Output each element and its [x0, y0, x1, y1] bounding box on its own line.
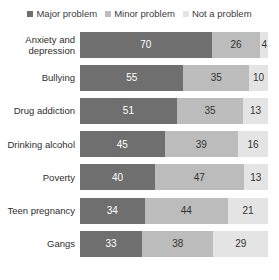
bar-segment-not-a-problem[interactable]: 29: [213, 231, 268, 257]
bar-segment-not-a-problem[interactable]: 21: [228, 198, 268, 224]
stacked-bar[interactable]: 344421: [80, 198, 268, 224]
bar-value-label: 13: [250, 172, 261, 183]
bar-segment-minor[interactable]: 44: [145, 198, 229, 224]
bar-segment-major[interactable]: 33: [80, 231, 142, 257]
bar-value-label: 35: [205, 105, 216, 116]
bar-segment-not-a-problem[interactable]: 13: [244, 164, 268, 190]
bar-value-label: 21: [242, 205, 253, 216]
bar-value-label: 39: [196, 139, 207, 150]
category-label: Poverty: [0, 172, 80, 183]
bar-segment-major[interactable]: 51: [80, 98, 177, 124]
bar-value-label: 47: [194, 172, 205, 183]
bar-segment-major[interactable]: 34: [80, 198, 145, 224]
bar-value-label: 51: [123, 105, 134, 116]
chart-row: Teen pregnancy344421: [0, 197, 279, 224]
legend-item[interactable]: Major problem: [27, 9, 97, 19]
category-label-line: Gangs: [0, 238, 75, 249]
category-label-line: Bullying: [0, 72, 75, 83]
chart-plot-area: Anxiety anddepression70264Bullying553510…: [0, 26, 279, 276]
category-label-line: Drinking alcohol: [0, 139, 75, 150]
legend-item[interactable]: Not a problem: [183, 9, 252, 19]
bar-segment-minor[interactable]: 39: [165, 131, 238, 157]
bar-value-label: 16: [247, 139, 258, 150]
bar-value-label: 40: [112, 172, 123, 183]
bar-segment-minor[interactable]: 35: [183, 65, 249, 91]
bar-segment-not-a-problem[interactable]: 13: [243, 98, 268, 124]
bar-value-label: 13: [250, 105, 261, 116]
chart-legend: Major problemMinor problemNot a problem: [0, 7, 279, 21]
category-label-line: depression: [0, 45, 75, 56]
category-label-line: Anxiety and: [0, 34, 75, 45]
stacked-bar[interactable]: 333829: [80, 231, 268, 257]
legend-item-label: Minor problem: [114, 9, 175, 19]
bar-segment-minor[interactable]: 26: [212, 32, 261, 58]
stacked-bar[interactable]: 404713: [80, 164, 268, 190]
category-label-line: Poverty: [0, 172, 75, 183]
bar-segment-major[interactable]: 70: [80, 32, 212, 58]
chart-row: Gangs333829: [0, 230, 279, 257]
chart-row: Anxiety anddepression70264: [0, 31, 279, 58]
category-label-line: Teen pregnancy: [0, 205, 75, 216]
category-label: Drinking alcohol: [0, 139, 80, 150]
bar-segment-not-a-problem[interactable]: 10: [249, 65, 268, 91]
bar-value-label: 10: [253, 72, 264, 83]
legend-swatch-icon: [27, 11, 33, 17]
bar-value-label: 26: [230, 39, 241, 50]
stacked-bar-chart: Major problemMinor problemNot a problem …: [0, 0, 279, 280]
category-label: Gangs: [0, 238, 80, 249]
bar-value-label: 44: [181, 205, 192, 216]
bar-value-label: 34: [107, 205, 118, 216]
chart-row: Poverty404713: [0, 164, 279, 191]
legend-item[interactable]: Minor problem: [105, 9, 175, 19]
bar-segment-minor[interactable]: 35: [177, 98, 243, 124]
bar-value-label: 29: [235, 238, 246, 249]
chart-row: Drinking alcohol453916: [0, 131, 279, 158]
bar-value-label: 35: [211, 72, 222, 83]
category-label: Drug addiction: [0, 105, 80, 116]
stacked-bar[interactable]: 453916: [80, 131, 268, 157]
legend-item-label: Major problem: [36, 9, 97, 19]
bar-value-label: 55: [126, 72, 137, 83]
bar-value-label: 33: [105, 238, 116, 249]
bar-value-label: 4: [261, 39, 267, 50]
bar-segment-major[interactable]: 45: [80, 131, 165, 157]
bar-value-label: 45: [117, 139, 128, 150]
bar-value-label: 38: [172, 238, 183, 249]
category-label: Bullying: [0, 72, 80, 83]
bar-segment-major[interactable]: 55: [80, 65, 183, 91]
category-label: Teen pregnancy: [0, 205, 80, 216]
legend-swatch-icon: [183, 11, 189, 17]
chart-row: Bullying553510: [0, 64, 279, 91]
bar-value-label: 70: [140, 39, 151, 50]
legend-swatch-icon: [105, 11, 111, 17]
chart-row: Drug addiction513513: [0, 97, 279, 124]
bar-segment-minor[interactable]: 38: [142, 231, 213, 257]
legend-item-label: Not a problem: [192, 9, 252, 19]
category-label-line: Drug addiction: [0, 105, 75, 116]
bar-segment-not-a-problem[interactable]: 4: [260, 32, 268, 58]
stacked-bar[interactable]: 553510: [80, 65, 268, 91]
category-label: Anxiety anddepression: [0, 34, 80, 56]
bar-segment-minor[interactable]: 47: [155, 164, 243, 190]
bar-segment-not-a-problem[interactable]: 16: [238, 131, 268, 157]
bar-segment-major[interactable]: 40: [80, 164, 155, 190]
stacked-bar[interactable]: 70264: [80, 32, 268, 58]
stacked-bar[interactable]: 513513: [80, 98, 268, 124]
